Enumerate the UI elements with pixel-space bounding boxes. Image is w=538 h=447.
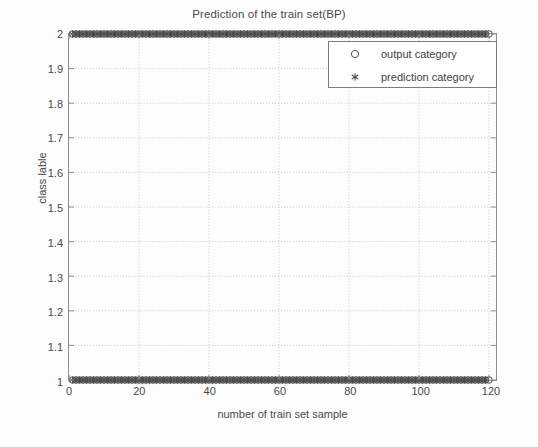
y-tick-label: 1.5 bbox=[48, 202, 63, 214]
x-tick-label: 20 bbox=[133, 385, 145, 397]
x-axis-label: number of train set sample bbox=[68, 408, 497, 420]
x-tick-label: 80 bbox=[344, 385, 356, 397]
y-tick-label: 1.7 bbox=[48, 132, 63, 144]
circle-marker-icon bbox=[329, 47, 381, 61]
y-tick-label: 1.1 bbox=[48, 341, 63, 353]
y-tick-label: 2 bbox=[57, 28, 63, 40]
x-tick-label: 40 bbox=[204, 385, 216, 397]
legend-label-output-category: output category bbox=[381, 48, 457, 60]
x-tick-label: 60 bbox=[274, 385, 286, 397]
y-tick-label: 1.8 bbox=[48, 98, 63, 110]
legend-entry-output-category: output category bbox=[329, 42, 496, 65]
y-tick-label: 1.2 bbox=[48, 306, 63, 318]
x-tick-label: 0 bbox=[66, 385, 72, 397]
x-tick-label: 100 bbox=[411, 385, 429, 397]
chart-legend: output category prediction category bbox=[328, 41, 497, 88]
y-tick-label: 1.3 bbox=[48, 272, 63, 284]
y-tick-label: 1.6 bbox=[48, 167, 63, 179]
legend-label-prediction-category: prediction category bbox=[381, 71, 474, 83]
y-tick-label: 1.4 bbox=[48, 237, 63, 249]
y-axis-label: class lable bbox=[36, 128, 48, 228]
y-tick-label: 1.9 bbox=[48, 63, 63, 75]
chart-title: Prediction of the train set(BP) bbox=[0, 8, 538, 20]
y-tick-label: 1 bbox=[57, 376, 63, 388]
asterisk-marker-icon bbox=[329, 70, 381, 84]
legend-entry-prediction-category: prediction category bbox=[329, 65, 496, 88]
x-tick-label: 120 bbox=[482, 385, 500, 397]
chart-figure: Prediction of the train set(BP) 11.11.21… bbox=[0, 0, 538, 447]
